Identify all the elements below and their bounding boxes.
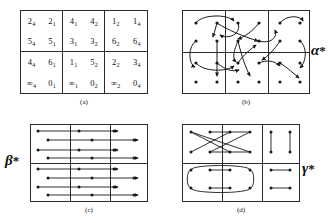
symbol: 54 bbox=[28, 37, 35, 46]
symbol: 62 bbox=[112, 37, 119, 46]
panel-a-cell-4: 11 52 ∞1 02 bbox=[63, 52, 105, 93]
label-beta-star: β* bbox=[5, 152, 19, 169]
symbol: 01 bbox=[48, 79, 55, 88]
panel-b: (b) bbox=[182, 10, 310, 94]
label-gamma-star: γ* bbox=[302, 160, 315, 177]
panel-c: (c) bbox=[30, 124, 148, 202]
symbol: 14 bbox=[133, 17, 140, 26]
symbol: 42 bbox=[90, 17, 97, 26]
panel-a-cell-5: 22 34 ∞2 04 bbox=[105, 52, 147, 93]
symbol: ∞1 bbox=[69, 79, 78, 88]
symbol: 64 bbox=[133, 37, 140, 46]
symbol: 51 bbox=[48, 37, 55, 46]
symbol: 32 bbox=[90, 37, 97, 46]
symbol: 11 bbox=[70, 58, 77, 67]
symbol: 34 bbox=[133, 58, 140, 67]
panel-d-pair-overlay bbox=[182, 124, 300, 202]
symbol: 44 bbox=[28, 58, 35, 67]
symbol: ∞4 bbox=[27, 79, 36, 88]
symbol: 41 bbox=[70, 17, 77, 26]
panel-a-caption: (a) bbox=[20, 98, 148, 106]
panel-a-cell-2: 12 14 62 64 bbox=[105, 11, 147, 52]
panel-a-cell-1: 41 42 31 32 bbox=[63, 11, 105, 52]
symbol: 24 bbox=[28, 17, 35, 26]
panel-b-arrow-overlay bbox=[182, 10, 310, 94]
symbol: 12 bbox=[112, 17, 119, 26]
panel-a-cell-3: 44 61 ∞4 01 bbox=[21, 52, 63, 93]
symbol: 31 bbox=[70, 37, 77, 46]
panel-b-caption: (b) bbox=[182, 98, 310, 106]
symbol: ∞2 bbox=[111, 79, 120, 88]
figure-root: 24 21 54 51 41 42 31 32 12 14 62 64 44 6… bbox=[0, 0, 330, 223]
symbol: 04 bbox=[133, 79, 140, 88]
symbol: 21 bbox=[48, 17, 55, 26]
panel-a-grid: 24 21 54 51 41 42 31 32 12 14 62 64 44 6… bbox=[20, 10, 148, 94]
panel-d: (d) bbox=[182, 124, 300, 202]
label-alpha-star: α* bbox=[311, 42, 326, 59]
symbol: 22 bbox=[112, 58, 119, 67]
symbol: 61 bbox=[48, 58, 55, 67]
symbol: 52 bbox=[90, 58, 97, 67]
panel-a-cell-0: 24 21 54 51 bbox=[21, 11, 63, 52]
symbol: 02 bbox=[90, 79, 97, 88]
panel-d-caption: (d) bbox=[182, 206, 300, 214]
panel-a: 24 21 54 51 41 42 31 32 12 14 62 64 44 6… bbox=[20, 10, 148, 94]
panel-c-arrow-overlay bbox=[30, 124, 148, 202]
panel-c-caption: (c) bbox=[30, 206, 148, 214]
